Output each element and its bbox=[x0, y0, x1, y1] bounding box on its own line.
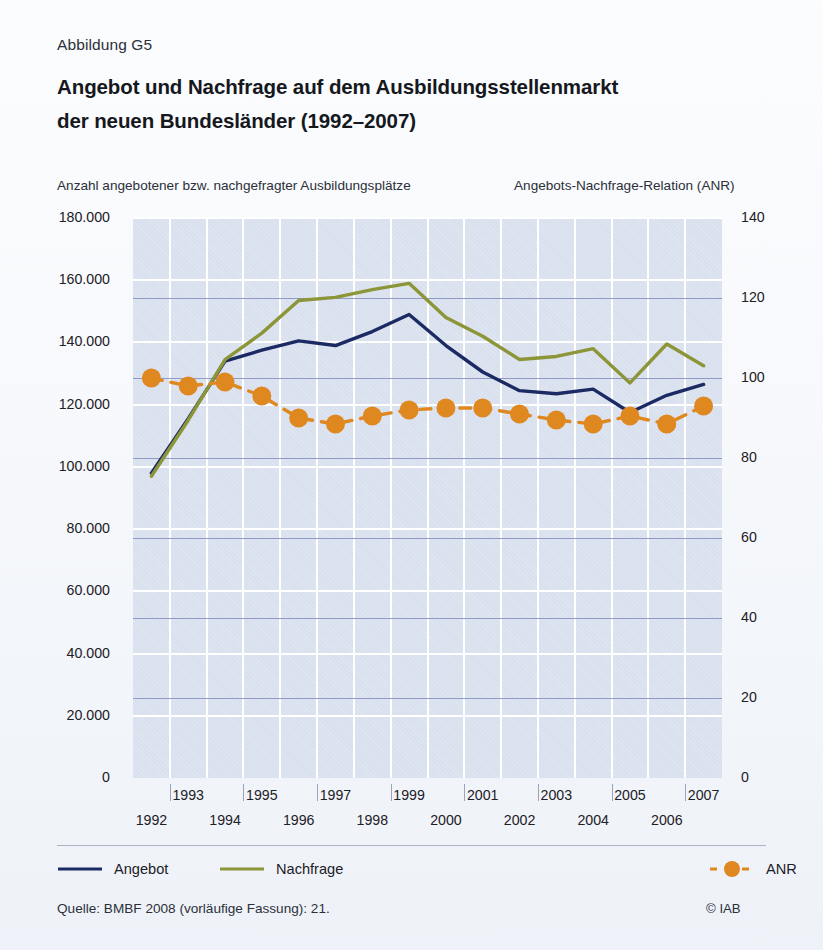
series-marker-anr bbox=[657, 415, 676, 434]
series-marker-anr bbox=[547, 411, 566, 430]
series-marker-anr bbox=[400, 401, 419, 420]
series-marker-anr bbox=[473, 399, 492, 418]
figure-container: Abbildung G5 Angebot und Nachfrage auf d… bbox=[0, 0, 823, 950]
data-series-overlay bbox=[0, 0, 823, 950]
series-marker-anr bbox=[694, 397, 713, 416]
series-marker-anr bbox=[326, 415, 345, 434]
series-marker-anr bbox=[179, 377, 198, 396]
series-marker-anr bbox=[252, 387, 271, 406]
series-marker-anr bbox=[584, 415, 603, 434]
series-line-angebot bbox=[151, 314, 703, 473]
series-marker-anr bbox=[436, 399, 455, 418]
series-marker-anr bbox=[620, 407, 639, 426]
series-marker-anr bbox=[510, 405, 529, 424]
series-marker-anr bbox=[216, 373, 235, 392]
series-marker-anr bbox=[289, 409, 308, 428]
series-marker-anr bbox=[142, 369, 161, 388]
series-marker-anr bbox=[363, 407, 382, 426]
